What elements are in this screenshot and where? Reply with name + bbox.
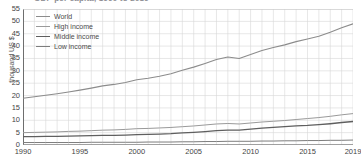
y-tick-label: 45 — [0, 30, 20, 38]
legend-item[interactable]: Middle income — [36, 32, 99, 41]
y-tick-label: 5 — [0, 129, 20, 137]
x-tick-label: 2005 — [185, 147, 202, 156]
legend: WorldHigh incomeMiddle incomeLow income — [36, 12, 99, 52]
y-tick-label: 35 — [0, 55, 20, 63]
x-tick-label: 1995 — [72, 147, 89, 156]
y-tick-label: 40 — [0, 42, 20, 50]
series-line-middle-income — [23, 122, 353, 137]
x-tick-label: 2019 — [345, 147, 361, 156]
legend-label: Middle income — [54, 32, 99, 41]
legend-swatch-icon — [36, 16, 50, 17]
x-tick-label: 1990 — [15, 147, 32, 156]
x-tick-label: 2015 — [299, 147, 316, 156]
legend-item[interactable]: Low income — [36, 42, 99, 51]
x-tick-label: 2010 — [242, 147, 259, 156]
legend-item[interactable]: High income — [36, 22, 99, 31]
series-line-low-income — [23, 140, 353, 142]
y-tick-label: 25 — [0, 79, 20, 87]
y-tick-label: 15 — [0, 104, 20, 112]
x-tick-label: 2000 — [128, 147, 145, 156]
legend-swatch-icon — [36, 26, 50, 27]
y-tick-label: 10 — [0, 117, 20, 125]
y-axis-ticks: 0510152025303540455055 — [0, 0, 20, 164]
y-tick-label: 20 — [0, 92, 20, 100]
legend-swatch-icon — [36, 46, 50, 47]
legend-item[interactable]: World — [36, 12, 99, 21]
legend-label: High income — [54, 22, 93, 31]
legend-swatch-icon — [36, 36, 50, 37]
legend-label: Low income — [54, 42, 91, 51]
y-tick-label: 50 — [0, 18, 20, 26]
legend-label: World — [54, 12, 72, 21]
y-tick-label: 30 — [0, 67, 20, 75]
y-tick-label: 55 — [0, 5, 20, 13]
chart-title: GDP per capita, 1990 to 2019 — [34, 0, 334, 3]
series-line-high-income — [23, 114, 353, 133]
